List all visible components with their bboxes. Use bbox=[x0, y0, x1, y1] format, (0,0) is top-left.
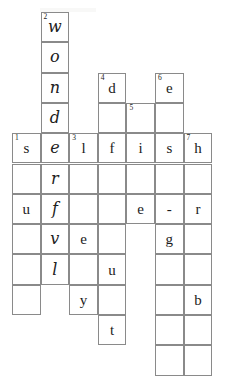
crossword-cell[interactable]: 2w bbox=[41, 12, 70, 42]
crossword-cell[interactable] bbox=[98, 194, 127, 224]
cell-letter: u bbox=[13, 201, 40, 216]
crossword-cell[interactable]: u bbox=[98, 254, 127, 284]
cell-letter: - bbox=[156, 201, 183, 216]
crossword-cell[interactable] bbox=[69, 254, 98, 284]
crossword-cell[interactable]: e bbox=[126, 194, 155, 224]
cell-letter: f bbox=[99, 141, 126, 156]
crossword-cell[interactable] bbox=[155, 254, 184, 284]
cell-letter: d bbox=[99, 80, 126, 95]
cell-letter: s bbox=[156, 141, 183, 156]
crossword-cell[interactable]: s bbox=[155, 133, 184, 163]
crossword-cell[interactable] bbox=[184, 315, 213, 345]
crossword-cell[interactable] bbox=[184, 254, 213, 284]
cell-letter: r bbox=[185, 201, 212, 216]
crossword-cell[interactable] bbox=[155, 345, 184, 375]
crossword-cell[interactable] bbox=[12, 224, 41, 254]
crossword-cell[interactable] bbox=[155, 315, 184, 345]
crossword-cell[interactable]: 3l bbox=[69, 133, 98, 163]
cell-letter: f bbox=[42, 201, 69, 217]
crossword-grid[interactable]: 2won4d6ed51se3lfis7hrufe-rvegluybt bbox=[0, 0, 229, 379]
crossword-cell[interactable] bbox=[69, 164, 98, 194]
crossword-cell[interactable]: r bbox=[184, 194, 213, 224]
crossword-cell[interactable] bbox=[126, 164, 155, 194]
crossword-cell[interactable]: - bbox=[155, 194, 184, 224]
crossword-cell[interactable]: i bbox=[126, 133, 155, 163]
cell-letter: e bbox=[70, 232, 97, 247]
cell-letter: w bbox=[42, 19, 69, 35]
crossword-cell[interactable]: l bbox=[41, 254, 70, 284]
cell-letter: t bbox=[99, 323, 126, 338]
crossword-cell[interactable]: n bbox=[41, 73, 70, 103]
crossword-cell[interactable]: f bbox=[98, 133, 127, 163]
cell-letter: d bbox=[42, 110, 69, 126]
crossword-cell[interactable]: 7h bbox=[184, 133, 213, 163]
cell-letter: g bbox=[156, 232, 183, 247]
cell-letter: r bbox=[42, 171, 69, 187]
crossword-cell[interactable] bbox=[98, 164, 127, 194]
crossword-cell[interactable]: 6e bbox=[155, 73, 184, 103]
cell-letter: h bbox=[185, 141, 212, 156]
crossword-cell[interactable]: 4d bbox=[98, 73, 127, 103]
cell-letter: l bbox=[70, 141, 97, 156]
cell-letter: i bbox=[127, 141, 154, 156]
crossword-cell[interactable]: o bbox=[41, 42, 70, 72]
crossword-cell[interactable] bbox=[155, 103, 184, 133]
crossword-cell[interactable] bbox=[12, 254, 41, 284]
crossword-cell[interactable] bbox=[184, 224, 213, 254]
crossword-cell[interactable]: v bbox=[41, 224, 70, 254]
crossword-cell[interactable] bbox=[69, 194, 98, 224]
crossword-cell[interactable] bbox=[12, 285, 41, 315]
cell-letter: y bbox=[70, 292, 97, 307]
crossword-cell[interactable]: d bbox=[41, 103, 70, 133]
cell-letter: e bbox=[156, 80, 183, 95]
cell-letter: u bbox=[99, 262, 126, 277]
crossword-cell[interactable]: g bbox=[155, 224, 184, 254]
cell-letter: e bbox=[127, 201, 154, 216]
crossword-cell[interactable] bbox=[184, 345, 213, 375]
crossword-cell[interactable]: b bbox=[184, 285, 213, 315]
crossword-cell[interactable]: e bbox=[69, 224, 98, 254]
cell-letter: n bbox=[42, 80, 69, 96]
crossword-cell[interactable] bbox=[98, 103, 127, 133]
crossword-cell[interactable]: u bbox=[12, 194, 41, 224]
crossword-cell[interactable] bbox=[184, 164, 213, 194]
crossword-cell[interactable] bbox=[98, 285, 127, 315]
crossword-cell[interactable] bbox=[155, 285, 184, 315]
cell-letter: e bbox=[42, 140, 69, 156]
clue-number: 5 bbox=[129, 104, 133, 112]
crossword-cell[interactable] bbox=[98, 224, 127, 254]
crossword-cell[interactable] bbox=[12, 164, 41, 194]
crossword-cell[interactable]: 5 bbox=[126, 103, 155, 133]
crossword-cell[interactable]: y bbox=[69, 285, 98, 315]
cell-letter: v bbox=[42, 231, 69, 247]
cell-letter: s bbox=[13, 141, 40, 156]
crossword-cell[interactable]: 1s bbox=[12, 133, 41, 163]
crossword-cell[interactable]: f bbox=[41, 194, 70, 224]
crossword-cell[interactable] bbox=[155, 164, 184, 194]
crossword-cell[interactable]: e bbox=[41, 133, 70, 163]
cell-letter: b bbox=[185, 292, 212, 307]
cell-letter: l bbox=[42, 262, 69, 278]
crossword-cell[interactable]: t bbox=[98, 315, 127, 345]
cell-letter: o bbox=[42, 49, 69, 65]
crossword-cell[interactable]: r bbox=[41, 164, 70, 194]
